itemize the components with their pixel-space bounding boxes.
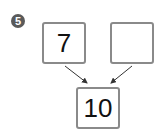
bond-arrows bbox=[0, 0, 164, 138]
arrow-left-icon bbox=[65, 66, 87, 83]
arrow-right-icon bbox=[111, 66, 132, 83]
